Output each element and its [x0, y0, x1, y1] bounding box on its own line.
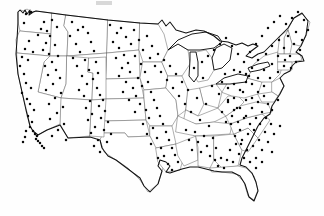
map-dot [87, 119, 90, 122]
map-dot [52, 83, 55, 86]
map-dot [160, 71, 163, 74]
map-dot [263, 85, 266, 88]
map-dot [24, 48, 27, 51]
map-dot [253, 129, 256, 132]
map-dot [86, 83, 89, 86]
map-dot [115, 57, 118, 60]
map-dot [27, 59, 30, 62]
map-dot [56, 112, 59, 115]
state-kansas [104, 98, 146, 121]
map-dot [122, 91, 125, 94]
map-dot [63, 123, 66, 126]
map-dot [273, 21, 276, 24]
map-dot [120, 27, 123, 30]
map-dot [237, 121, 240, 124]
map-dot [162, 123, 165, 126]
map-dot [303, 19, 306, 22]
state-new-mexico [90, 99, 106, 137]
map-dot [246, 149, 249, 152]
map-dot [116, 32, 119, 35]
map-dot [225, 121, 228, 124]
map-dot [90, 41, 93, 44]
map-dot [271, 109, 274, 112]
map-dot [159, 115, 162, 118]
map-dot [82, 26, 85, 29]
map-dot [109, 24, 112, 27]
map-dot [163, 59, 166, 62]
map-dot [25, 130, 28, 133]
map-dot [270, 123, 273, 126]
map-dot [242, 91, 245, 94]
map-dot [26, 98, 29, 101]
map-dot [236, 107, 239, 110]
map-dot [118, 75, 121, 78]
map-dot [241, 139, 244, 142]
map-dot [97, 72, 100, 75]
map-dot [199, 119, 202, 122]
map-dot [132, 87, 135, 90]
map-dot [35, 138, 38, 141]
map-dot [118, 47, 121, 50]
map-dot [190, 111, 193, 114]
map-dot [220, 157, 223, 160]
map-dot [231, 115, 234, 118]
map-dot [206, 145, 209, 148]
map-dot [255, 117, 258, 120]
map-dot [263, 95, 266, 98]
map-dot [36, 135, 39, 138]
state-borders-layer [16, 9, 310, 200]
map-dot [81, 75, 84, 78]
map-dot [23, 22, 26, 25]
map-dot [88, 69, 91, 72]
map-dot [255, 167, 258, 170]
map-dot [197, 141, 200, 144]
map-dot [90, 132, 93, 135]
map-dot [152, 127, 155, 130]
map-dot [225, 37, 228, 40]
map-dot [51, 61, 54, 64]
map-dot [93, 50, 96, 53]
map-dot [245, 99, 248, 102]
map-dot [134, 55, 137, 58]
map-dot [142, 49, 145, 52]
map-dot [239, 71, 242, 74]
map-dot [135, 95, 138, 98]
map-dot [96, 87, 99, 90]
map-dot [30, 11, 33, 14]
map-dot [229, 149, 232, 152]
map-dot [202, 77, 205, 80]
map-dot [79, 51, 82, 54]
map-dot [99, 94, 102, 97]
map-dot [156, 137, 159, 140]
map-dot [150, 91, 153, 94]
map-dot [49, 35, 52, 38]
map-dot [93, 145, 96, 148]
map-dot [166, 79, 169, 82]
map-dot [57, 55, 60, 58]
map-dot [307, 29, 310, 32]
map-dot [65, 139, 68, 142]
map-dot [258, 139, 261, 142]
map-dot [24, 136, 27, 139]
map-dot [34, 133, 37, 136]
map-dot [271, 45, 274, 48]
map-dot [283, 65, 286, 68]
map-dot [255, 157, 258, 160]
map-dot [19, 65, 22, 68]
map-dot [123, 54, 126, 57]
map-dot [265, 117, 268, 120]
map-dot [177, 161, 180, 164]
map-dot [153, 99, 156, 102]
map-dot [56, 26, 59, 29]
map-dot [233, 109, 236, 112]
map-dot [145, 109, 148, 112]
map-dot [287, 35, 290, 38]
map-dot [43, 21, 46, 24]
map-dot [249, 161, 252, 164]
map-dot [245, 115, 248, 118]
map-dot [89, 100, 92, 103]
map-dot [277, 99, 280, 102]
map-dot [223, 167, 226, 170]
map-dot [87, 32, 90, 35]
map-dot [141, 85, 144, 88]
